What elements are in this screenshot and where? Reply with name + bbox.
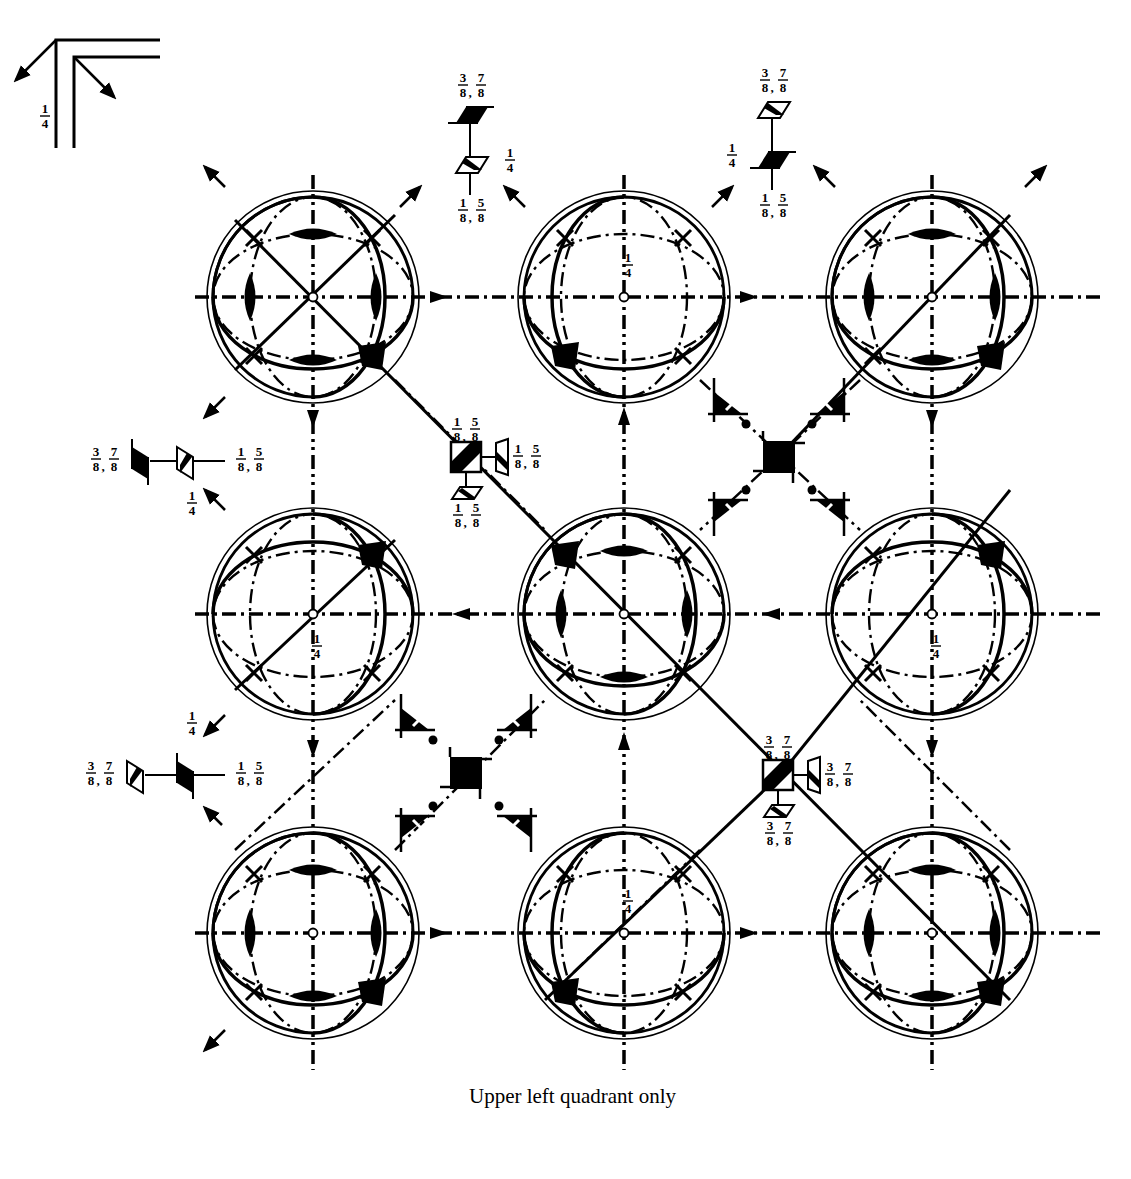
cross-mark-icon xyxy=(675,230,691,246)
svg-text:8: 8 xyxy=(827,774,834,789)
svg-text:,: , xyxy=(775,833,778,848)
twofold-axis-icon xyxy=(908,355,956,366)
svg-text:7: 7 xyxy=(784,732,791,747)
cross-mark-icon xyxy=(865,665,881,681)
fraction-label: 38,78 xyxy=(760,65,788,95)
svg-text:8: 8 xyxy=(454,429,461,444)
svg-text:5: 5 xyxy=(256,444,263,459)
twofold-axis-icon xyxy=(289,355,337,366)
dot-icon xyxy=(429,802,438,811)
dot-icon xyxy=(808,420,817,429)
fraction-label: 14 xyxy=(187,708,197,738)
twofold-axis-icon xyxy=(908,865,956,876)
inversion-center-icon xyxy=(309,610,318,619)
svg-text:8: 8 xyxy=(238,773,245,788)
symbol-group-left-upper-axis: 38,7818,5814 xyxy=(91,439,264,518)
twofold-axis-icon xyxy=(864,909,875,957)
arrow-icon xyxy=(205,1030,225,1050)
inversion-center-icon xyxy=(620,929,629,938)
inversion-center-icon xyxy=(928,610,937,619)
twofold-axis-icon xyxy=(289,865,337,876)
svg-text:8: 8 xyxy=(256,773,263,788)
quarter-label: 14 xyxy=(623,886,633,916)
svg-text:1: 1 xyxy=(933,631,940,646)
svg-text:1: 1 xyxy=(515,441,522,456)
cross-mark-icon xyxy=(246,866,262,882)
svg-text:8: 8 xyxy=(256,459,263,474)
threefold-axis-icon xyxy=(977,541,1005,569)
threefold-screw-icon xyxy=(495,802,538,853)
threefold-screw-icon xyxy=(808,486,851,537)
dot-icon xyxy=(495,802,504,811)
svg-text:8: 8 xyxy=(472,429,479,444)
fraction-label: 38,78 xyxy=(91,444,119,474)
svg-text:8: 8 xyxy=(88,773,95,788)
twofold-axis-icon xyxy=(990,273,1001,321)
svg-text:,: , xyxy=(774,747,777,762)
svg-text:1: 1 xyxy=(238,444,245,459)
boxed-symmetry-center-center-lower: 38,7838,7838,78 xyxy=(763,732,853,848)
twofold-axis-icon xyxy=(990,909,1001,957)
svg-text:3: 3 xyxy=(460,70,467,85)
twofold-axis-icon xyxy=(908,991,956,1002)
fraction-label: 14 xyxy=(505,145,515,175)
svg-text:1: 1 xyxy=(189,488,196,503)
svg-text:1: 1 xyxy=(762,190,769,205)
svg-text:7: 7 xyxy=(845,759,852,774)
twofold-axis-icon xyxy=(600,672,648,683)
threefold-axis-icon xyxy=(977,342,1005,370)
svg-text:8: 8 xyxy=(515,456,522,471)
fraction-label: 38,78 xyxy=(764,732,792,762)
fraction-label: 14 xyxy=(931,631,941,661)
svg-text:,: , xyxy=(101,459,104,474)
fraction-label: 18,58 xyxy=(453,500,481,530)
cross-mark-icon xyxy=(246,984,262,1000)
cross-mark-icon xyxy=(675,984,691,1000)
symbol-group-top-right-axis: 38,7818,5814 xyxy=(727,65,796,220)
svg-text:4: 4 xyxy=(42,116,49,131)
fraction-label: 18,58 xyxy=(513,441,541,471)
arrow-icon xyxy=(16,40,56,80)
svg-text:7: 7 xyxy=(111,444,118,459)
arrow-icon xyxy=(618,732,630,750)
svg-text:8: 8 xyxy=(533,456,540,471)
open-glide-icon xyxy=(758,102,790,118)
corner-key-glide-symbol: 14 xyxy=(16,40,160,148)
twofold-axis-icon xyxy=(245,909,256,957)
svg-text:,: , xyxy=(246,773,249,788)
arrow-icon xyxy=(400,187,420,207)
fourfold-rotoinversion-icon xyxy=(450,757,482,789)
diagonal-solid-line xyxy=(780,215,1010,455)
arrow-icon xyxy=(307,740,319,758)
svg-text:5: 5 xyxy=(478,195,485,210)
symbol-group-top-left-axis: 38,7818,5814 xyxy=(448,70,515,225)
svg-text:5: 5 xyxy=(780,190,787,205)
svg-text:3: 3 xyxy=(93,444,100,459)
svg-text:,: , xyxy=(246,459,249,474)
arrow-icon xyxy=(430,291,448,303)
cross-mark-icon xyxy=(675,348,691,364)
fraction-label: 38,78 xyxy=(825,759,853,789)
cross-mark-icon xyxy=(865,547,881,563)
inversion-center-icon xyxy=(620,293,629,302)
quarter-label: 14 xyxy=(623,250,633,280)
cross-mark-icon xyxy=(364,665,380,681)
open-glide-icon xyxy=(127,761,143,793)
symmetry-axes xyxy=(195,175,1100,1070)
svg-text:8: 8 xyxy=(762,205,769,220)
arrow-icon xyxy=(205,397,225,417)
filled-glide-icon xyxy=(177,753,193,799)
svg-text:8: 8 xyxy=(478,210,485,225)
cross-mark-icon xyxy=(364,866,380,882)
svg-text:8: 8 xyxy=(780,80,787,95)
twofold-axis-icon xyxy=(682,590,693,638)
twofold-axis-icon xyxy=(289,229,337,240)
svg-text:1: 1 xyxy=(729,140,736,155)
fraction-label: 38,78 xyxy=(765,818,793,848)
arrow-icon xyxy=(505,187,525,207)
cross-mark-icon xyxy=(865,348,881,364)
svg-text:8: 8 xyxy=(93,459,100,474)
cross-mark-icon xyxy=(246,230,262,246)
cross-mark-icon xyxy=(557,230,573,246)
threefold-axis-icon xyxy=(358,978,386,1006)
